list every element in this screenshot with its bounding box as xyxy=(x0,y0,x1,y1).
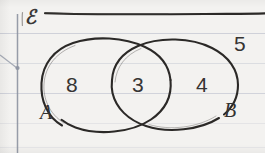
set-b-circle xyxy=(112,40,238,130)
region-count-b-only: 4 xyxy=(196,74,208,95)
region-count-outside: 5 xyxy=(234,33,246,54)
universal-set-symbol: ℰ xyxy=(24,8,37,28)
set-b-label: B xyxy=(224,100,236,120)
region-count-intersection: 3 xyxy=(132,74,144,95)
universal-set-rectangle xyxy=(22,13,265,26)
region-count-a-only: 8 xyxy=(66,74,78,95)
set-a-circle xyxy=(41,38,170,132)
set-a-label: A xyxy=(40,102,52,122)
margin-rule-line xyxy=(0,14,20,153)
venn-diagram-page: ℰ 8 3 4 5 A B xyxy=(0,0,265,153)
